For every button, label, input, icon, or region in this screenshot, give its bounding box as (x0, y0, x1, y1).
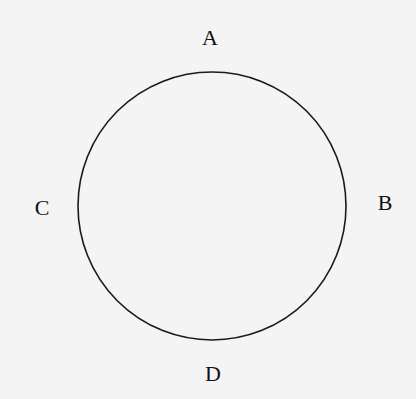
label-a: A (202, 27, 218, 49)
label-b: B (378, 192, 393, 214)
circle-graphic (0, 0, 416, 399)
label-d: D (205, 363, 221, 385)
circle-shape (78, 72, 346, 340)
diagram-canvas: A B C D (0, 0, 416, 399)
label-c: C (35, 197, 50, 219)
